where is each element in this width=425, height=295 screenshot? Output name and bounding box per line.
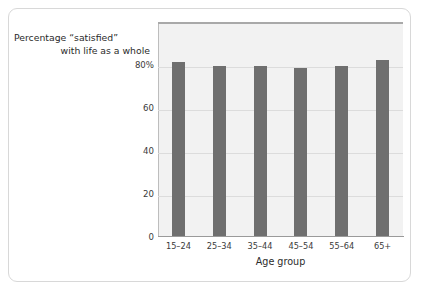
x-tick-label: 25–34 [196, 241, 242, 251]
x-tick-label: 15–24 [155, 241, 201, 251]
bar [172, 62, 185, 236]
y-tick-label: 20 [108, 189, 154, 199]
y-tick-label: 0 [108, 232, 154, 242]
bar [335, 66, 348, 236]
x-tick-label: 55–64 [319, 241, 365, 251]
y-axis-line [158, 24, 159, 237]
y-tick-label: 80% [108, 60, 154, 70]
gridline [158, 67, 403, 68]
y-tick-label: 40 [108, 146, 154, 156]
x-tick-label: 35–44 [237, 241, 283, 251]
gridline [158, 196, 403, 197]
x-axis-title: Age group [158, 256, 403, 267]
x-tick-label: 65+ [360, 241, 406, 251]
y-tick-label: 60 [108, 103, 154, 113]
bar [254, 66, 267, 236]
x-tick-label: 45–54 [278, 241, 324, 251]
gridline [158, 153, 403, 154]
bar [376, 60, 389, 236]
bar [213, 66, 226, 236]
chart-figure: Percentage “satisfied” with life as a wh… [0, 0, 425, 295]
y-axis-ticks: 020406080% [104, 22, 154, 237]
gridline [158, 110, 403, 111]
plot-area [158, 22, 403, 237]
bar [294, 68, 307, 236]
